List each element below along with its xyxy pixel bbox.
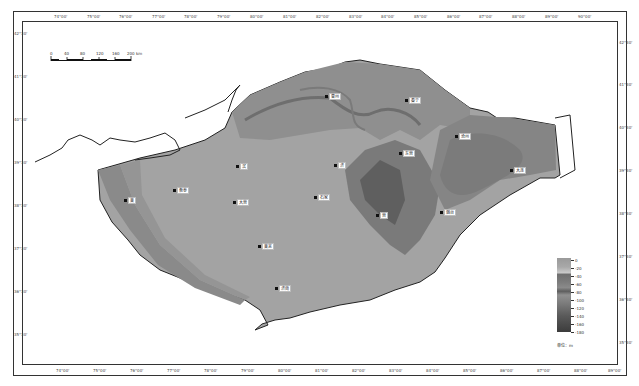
station-label: 莱 — [128, 197, 136, 204]
station-dot-icon — [376, 214, 379, 217]
left-tick-label: 38°30' — [14, 203, 22, 208]
top-tick-label: 77°00' — [152, 14, 165, 19]
bottom-tick-label: 81°00' — [315, 368, 328, 373]
station-marker[interactable]: 衡泰 — [173, 187, 189, 194]
top-tick-label: 90°00' — [578, 14, 591, 19]
bottom-tick-label: 76°00' — [130, 368, 143, 373]
station-dot-icon — [455, 135, 458, 138]
legend-value: -80 — [575, 290, 582, 295]
bottom-tick-label: 89°00' — [608, 368, 621, 373]
top-tick-label: 78°00' — [184, 14, 197, 19]
legend-value: -160 — [575, 322, 584, 327]
left-tick-label: 35°30' — [14, 332, 22, 337]
station-dot-icon — [236, 165, 239, 168]
station-label: 济 — [338, 162, 346, 169]
station-label: 东营 — [403, 150, 415, 157]
station-label: 沧州 — [459, 133, 471, 140]
station-marker[interactable]: 济南 — [275, 285, 291, 292]
station-marker[interactable]: 烟台 — [440, 209, 456, 216]
left-tick-label: 36°30' — [14, 289, 22, 294]
station-label: 大营 — [237, 199, 249, 206]
top-tick-label: 76°00' — [119, 14, 132, 19]
station-marker[interactable]: 沧州 — [455, 133, 471, 140]
scale-label: 120 — [96, 51, 104, 56]
station-label: 烟台 — [444, 209, 456, 216]
station-dot-icon — [325, 95, 328, 98]
station-marker[interactable]: 石家 — [314, 194, 330, 201]
left-tick-label: 37°30' — [14, 246, 22, 251]
station-marker[interactable]: 大连 — [510, 167, 526, 174]
station-dot-icon — [124, 199, 127, 202]
station-label: 衡泰 — [177, 187, 189, 194]
station-label: 滨 — [240, 163, 248, 170]
left-tick-label: 41°30' — [14, 74, 22, 79]
station-marker[interactable]: 莱芜 — [258, 243, 274, 250]
left-tick-label: 39°30' — [14, 160, 22, 165]
bottom-tick-label: 75°00' — [93, 368, 106, 373]
top-tick-label: 88°00' — [512, 14, 525, 19]
station-dot-icon — [173, 189, 176, 192]
station-marker[interactable]: 曹州 — [325, 93, 341, 100]
scale-label: 0 — [50, 51, 53, 56]
legend-value: 0 — [575, 258, 578, 263]
scale-label: 40 — [64, 51, 69, 56]
bottom-tick-label: 74°00' — [56, 368, 69, 373]
top-tick-label: 84°00' — [381, 14, 394, 19]
station-label: 营 — [380, 212, 388, 219]
legend-unit: 单位：m — [557, 342, 573, 348]
station-label: 秦宁 — [409, 97, 421, 104]
bottom-tick-label: 84°00' — [426, 368, 439, 373]
right-tick-label: 42°30' — [619, 40, 627, 45]
right-tick-label: 39°30' — [619, 168, 627, 173]
right-tick-label: 40°30' — [619, 125, 627, 130]
bottom-tick-label: 79°00' — [241, 368, 254, 373]
station-marker[interactable]: 营 — [376, 212, 388, 219]
legend-value: -20 — [575, 266, 582, 271]
scale-bar — [51, 56, 131, 61]
bottom-tick-label: 82°00' — [352, 368, 365, 373]
legend-value: -180 — [575, 330, 584, 335]
top-tick-label: 75°00' — [87, 14, 100, 19]
left-tick-label: 40°30' — [14, 117, 22, 122]
bottom-tick-label: 88°00' — [574, 368, 587, 373]
bottom-tick-label: 80°00' — [278, 368, 291, 373]
station-marker[interactable]: 莱 — [124, 197, 136, 204]
station-dot-icon — [405, 99, 408, 102]
station-dot-icon — [233, 201, 236, 204]
station-marker[interactable]: 东营 — [399, 150, 415, 157]
legend-value: -40 — [575, 274, 582, 279]
map-canvas — [0, 0, 639, 386]
station-marker[interactable]: 济 — [334, 162, 346, 169]
station-label: 莱芜 — [262, 243, 274, 250]
right-tick-label: 36°30' — [619, 297, 627, 302]
station-label: 济南 — [279, 285, 291, 292]
station-dot-icon — [334, 164, 337, 167]
right-tick-label: 35°30' — [619, 340, 627, 345]
right-tick-label: 38°30' — [619, 211, 627, 216]
top-tick-label: 85°00' — [414, 14, 427, 19]
top-tick-label: 81°00' — [283, 14, 296, 19]
scale-label: 160 — [112, 51, 120, 56]
station-dot-icon — [275, 287, 278, 290]
top-tick-label: 83°00' — [349, 14, 362, 19]
scale-label: 200 km — [127, 51, 142, 56]
bottom-tick-label: 85°00' — [463, 368, 476, 373]
station-dot-icon — [399, 152, 402, 155]
top-tick-label: 80°00' — [250, 14, 263, 19]
right-tick-label: 37°30' — [619, 254, 627, 259]
bottom-tick-label: 83°00' — [389, 368, 402, 373]
legend-value: -140 — [575, 314, 584, 319]
bottom-tick-label: 77°00' — [167, 368, 180, 373]
bottom-tick-label: 87°00' — [537, 368, 550, 373]
depth-colorbar — [557, 258, 571, 332]
top-tick-label: 79°00' — [217, 14, 230, 19]
top-tick-label: 74°00' — [54, 14, 67, 19]
station-marker[interactable]: 滨 — [236, 163, 248, 170]
legend-value: -120 — [575, 306, 584, 311]
station-dot-icon — [314, 196, 317, 199]
station-marker[interactable]: 秦宁 — [405, 97, 421, 104]
station-marker[interactable]: 大营 — [233, 199, 249, 206]
station-dot-icon — [258, 245, 261, 248]
station-dot-icon — [440, 211, 443, 214]
top-tick-label: 89°00' — [545, 14, 558, 19]
